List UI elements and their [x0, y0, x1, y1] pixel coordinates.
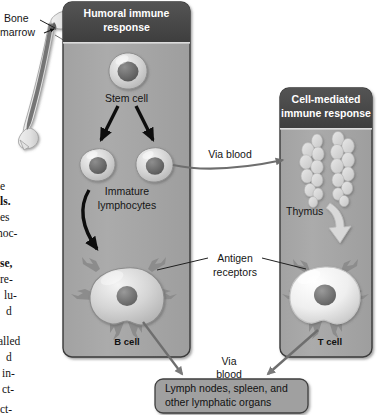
humoral-panel-title-line2: response — [103, 21, 150, 33]
immature-lymphocytes-label-line1: Immature — [105, 185, 150, 197]
immature-lymphocytes-label-line2: lymphocytes — [98, 199, 156, 211]
humoral-panel-title-line1: Humoral immune — [84, 7, 170, 19]
via-blood-bottom-label-line1: Via — [222, 355, 237, 367]
antigen-receptors-label-line2: receptors — [213, 266, 257, 278]
t-cell-label: T cell — [318, 336, 342, 347]
humoral-header-rule — [63, 42, 190, 44]
lymphatic-organs-box: Lymph nodes, spleen, and other lymphatic… — [155, 379, 308, 413]
b-cell-nucleus — [117, 286, 138, 306]
diagram-canvas: els.esnoc-se,re-lu-dalleddin-ct-ct- — [0, 0, 382, 415]
stem-cell-label: Stem cell — [105, 92, 148, 104]
immature-right-nucleus — [146, 157, 164, 175]
via-blood-top-label: Via blood — [208, 148, 252, 160]
t-cell-nucleus — [314, 285, 336, 306]
immature-lymphocyte-right — [136, 148, 173, 182]
lymphatic-organs-line2: other lymphatic organs — [165, 396, 271, 408]
thymus-label: Thymus — [286, 205, 323, 217]
bone-marrow-label-line1: Bone — [4, 12, 29, 24]
cell-mediated-header-rule — [280, 128, 372, 130]
antigen-receptors-label-line1: Antigen — [217, 252, 253, 264]
bone-marrow-label-line2: marrow — [0, 26, 35, 38]
cell-mediated-title-line1: Cell-mediated — [292, 93, 361, 105]
cell-mediated-title-line2: immune response — [281, 107, 371, 119]
stem-cell — [109, 53, 147, 89]
via-blood-bottom-label-line2: blood — [216, 368, 242, 380]
lymphatic-organs-line1: Lymph nodes, spleen, and — [165, 382, 288, 394]
immune-response-diagram: Bone marrow Humoral immune response Stem… — [0, 0, 382, 415]
immature-lymphocyte-left — [80, 149, 115, 181]
immature-left-nucleus — [89, 157, 107, 174]
b-cell-label: B cell — [114, 336, 139, 347]
